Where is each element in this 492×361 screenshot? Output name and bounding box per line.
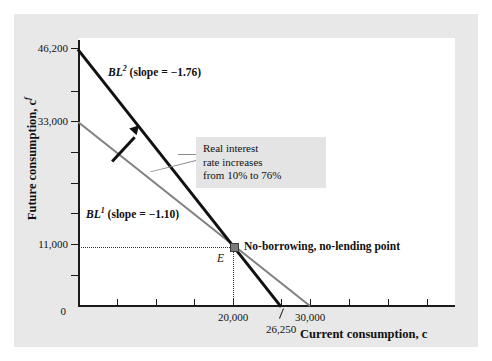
curve-label-bl1-name: BL: [86, 208, 101, 220]
x-tick-45000: [427, 299, 428, 306]
curve-label-bl2-name: BL: [108, 66, 123, 78]
x-axis: [78, 305, 455, 307]
y-tick-5500: [71, 275, 78, 276]
y-tick-11000: [71, 244, 78, 245]
y-axis-title-superscript: f: [22, 97, 32, 100]
curve-label-bl2-exponent: 2: [123, 64, 127, 73]
y-tick-label-0: 0: [4, 305, 66, 317]
y-tick-22000: [71, 183, 78, 184]
curve-label-bl1-slope: (slope = −1.10): [108, 208, 180, 220]
annotation-line-2: rate increases: [203, 156, 319, 170]
curve-label-bl1: BL1 (slope = −1.10): [86, 206, 179, 220]
y-tick-16500: [71, 213, 78, 214]
annotation-line-1: Real interest: [203, 142, 319, 156]
y-axis-title: Future consumption, cf: [22, 64, 39, 254]
no-borrowing-no-lending-caption: No-borrowing, no-lending point: [244, 240, 400, 252]
curve-label-bl2: BL2 (slope = −1.76): [108, 64, 201, 78]
equilibrium-point-marker[interactable]: [230, 243, 239, 252]
interest-rate-annotation: Real interest rate increases from 10% to…: [196, 137, 326, 188]
x-tick-35000: [349, 299, 350, 306]
annotation-line-3: from 10% to 76%: [203, 169, 319, 183]
y-tick-38500: [71, 91, 78, 92]
x-axis-title: Current consumption, c: [300, 327, 427, 342]
equilibrium-point-label: E: [217, 252, 224, 264]
curve-label-bl2-slope: (slope = −1.76): [130, 66, 202, 78]
x-axis-title-text: Current consumption, c: [300, 327, 427, 341]
curve-label-bl1-exponent: 1: [101, 206, 105, 215]
y-tick-27500: [71, 152, 78, 153]
figure-container: 46,200 33,000 11,000 0 20,000 26,250 30,…: [0, 0, 492, 361]
x-tick-5000: [117, 299, 118, 306]
guide-line-20000: [233, 247, 234, 305]
x-tick-40000: [388, 299, 389, 306]
callout-leader-line-2: [178, 154, 197, 155]
x-tick-15000: [194, 299, 195, 306]
y-tick-label-46200: 46,200: [6, 42, 68, 54]
y-axis-title-text: Future consumption, c: [25, 100, 39, 220]
x-tick-label-20000: 20,000: [205, 311, 261, 323]
y-axis: [78, 40, 80, 306]
x-tick-10000: [156, 299, 157, 306]
guide-line-11000: [79, 247, 234, 248]
x-tick-label-30000: 30,000: [282, 311, 338, 323]
